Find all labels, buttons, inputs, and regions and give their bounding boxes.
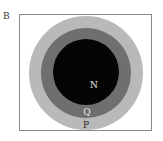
label-p: P: [83, 120, 89, 130]
label-q: Q: [83, 107, 90, 117]
label-n: N: [90, 80, 98, 90]
circle-n: [53, 39, 119, 105]
concentric-circles-diagram: N Q P: [0, 0, 163, 141]
